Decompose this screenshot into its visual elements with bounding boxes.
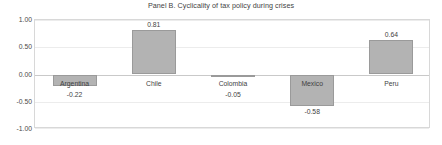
y-axis-tick-label: -0.50 (2, 97, 32, 104)
y-axis-tick-label: -1.00 (2, 125, 32, 132)
y-axis-tick-label: 0.50 (2, 43, 32, 50)
bar-group: Argentina-0.22 (35, 20, 114, 127)
bar-group: Colombia-0.05 (193, 20, 272, 127)
y-axis-tick-label: 0.00 (2, 70, 32, 77)
category-label: Colombia (219, 80, 248, 87)
bar-group: Peru0.64 (352, 20, 431, 127)
plot-area: Argentina-0.22Chile0.81Colombia-0.05Mexi… (34, 19, 430, 128)
category-label: Argentina (60, 80, 89, 87)
bar[interactable] (369, 40, 413, 75)
chart-panel-b: Panel B. Cyclicality of tax policy durin… (0, 0, 442, 145)
category-label: Chile (146, 80, 162, 87)
y-axis-tick-label: 1.00 (2, 16, 32, 23)
value-label: 0.64 (385, 31, 398, 38)
chart-title: Panel B. Cyclicality of tax policy durin… (0, 1, 442, 10)
value-label: -0.22 (67, 91, 83, 98)
y-axis: 1.000.500.00-0.50-1.00 (0, 19, 32, 128)
bars-layer: Argentina-0.22Chile0.81Colombia-0.05Mexi… (35, 20, 429, 127)
category-label: Peru (384, 80, 398, 87)
bar[interactable] (132, 30, 176, 74)
value-label: -0.58 (304, 108, 320, 115)
gridline (35, 128, 429, 129)
value-label: 0.81 (147, 21, 160, 28)
bar-group: Mexico-0.58 (273, 20, 352, 127)
value-label: -0.05 (225, 91, 241, 98)
bar[interactable] (211, 75, 255, 78)
category-label: Mexico (301, 80, 323, 87)
bar-group: Chile0.81 (114, 20, 193, 127)
